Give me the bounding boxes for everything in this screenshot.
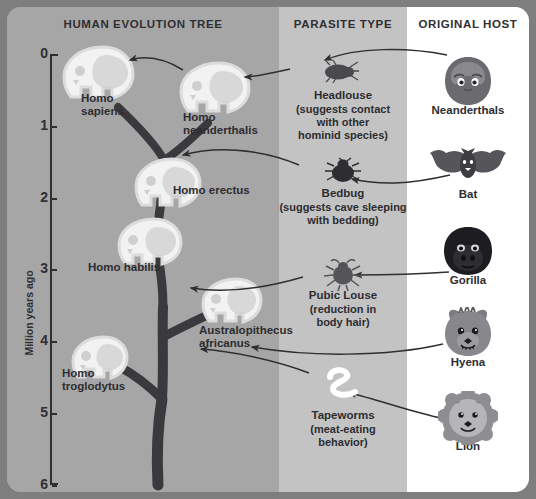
y-tick-label-1: 1 [32,117,48,133]
host-entry-bat: Bat [407,145,529,200]
lion-icon [407,391,529,437]
y-axis-title: Million years ago [23,253,35,373]
parasite-entry-bedbug: Bedbug (suggests cave sleeping with bedd… [279,157,407,227]
species-label-homo-sapiens: Homo sapiens [81,92,124,118]
hyena-icon [407,307,529,353]
y-tick-label-6: 6 [32,476,48,492]
skull-homo-neanderthalis [177,59,253,119]
host-entry-neanderthals: Neanderthals [407,55,529,116]
parasite-name-bedbug: Bedbug [279,187,407,201]
y-tick-0 [52,54,57,56]
host-entry-gorilla: Gorilla [407,225,529,286]
skull-australopithecus-africanus [199,275,265,329]
header-human-evolution-tree: HUMAN EVOLUTION TREE [7,18,279,30]
y-tick-5 [52,413,57,415]
parasite-name-pubic-louse: Pubic Louse [279,289,407,303]
parasite-note-bedbug: (suggests cave sleeping with bedding) [279,201,407,227]
parasite-entry-tapeworms: Tapeworms (meat-eating behavior) [279,375,407,449]
header-parasite-type: PARASITE TYPE [279,18,407,30]
y-tick-2 [52,198,57,200]
parasite-entry-headlouse: Headlouse (suggests contact with other h… [279,59,407,141]
y-tick-3 [52,269,57,271]
parasite-note-pubic-louse: (reduction in body hair) [279,303,407,329]
species-label-homo-neanderthalis: Homo neanderthalis [183,111,258,137]
parasite-name-tapeworms: Tapeworms [279,409,407,423]
species-label-homo-erectus: Homo erectus [173,184,250,197]
header-original-host: ORIGINAL HOST [407,18,529,30]
parasite-name-headlouse: Headlouse [279,89,407,103]
y-tick-label-5: 5 [32,404,48,420]
bat-icon [407,145,529,185]
parasite-note-tapeworms: (meat-eating behavior) [279,423,407,449]
species-label-homo-troglodytus: Homo troglodytus [62,367,125,393]
infographic-panel: HUMAN EVOLUTION TREE PARASITE TYPE ORIGI… [7,7,529,492]
y-tick-4 [52,341,57,343]
parasite-entry-pubic-louse: Pubic Louse (reduction in body hair) [279,259,407,329]
gorilla-icon [407,225,529,271]
headlouse-icon [279,59,407,89]
host-name-bat: Bat [407,188,529,200]
pubic-louse-icon [279,259,407,289]
host-entry-lion: Lion [407,391,529,452]
neanderthal-face-icon [407,55,529,101]
y-tick-6 [52,485,57,487]
infographic-root: HUMAN EVOLUTION TREE PARASITE TYPE ORIGI… [0,0,536,499]
host-entry-hyena: Hyena [407,307,529,368]
y-tick-label-2: 2 [32,189,48,205]
y-tick-label-0: 0 [32,45,48,61]
species-label-homo-habilis: Homo habilis [88,261,160,274]
parasite-note-headlouse: (suggests contact with other hominid spe… [279,103,407,142]
tapeworm-icon [279,375,407,409]
y-tick-1 [52,126,57,128]
bedbug-icon [279,157,407,187]
